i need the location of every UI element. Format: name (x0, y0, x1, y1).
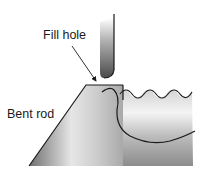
bent-rod-shape (29, 85, 123, 166)
bent-rod-label: Bent rod (7, 108, 54, 121)
diagram-graphic (0, 0, 199, 172)
fill-hole-label: Fill hole (43, 29, 86, 42)
filler-rod (100, 18, 114, 78)
fill-hole-pointer (72, 46, 96, 81)
welding-diagram: Fill hole Bent rod (0, 0, 199, 172)
